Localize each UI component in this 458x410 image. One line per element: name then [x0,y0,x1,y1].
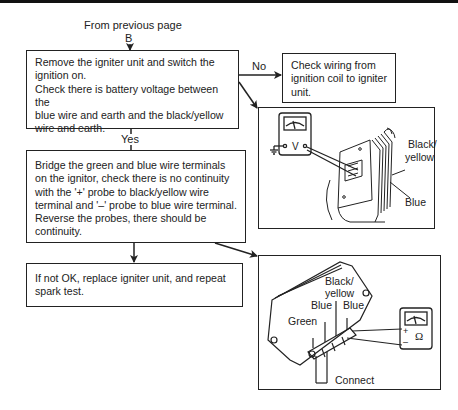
voltmeter-symbol: V [292,141,299,152]
ohmmeter-plus: + [403,326,408,336]
label-green: Green [288,315,317,327]
label-black-yellow: Black/ [408,138,437,150]
label-blue-left: Blue [311,299,332,311]
label-connect: Connect [335,374,374,386]
label-blue: Blue [405,196,426,208]
label-blue-right: Blue [343,299,364,311]
diagram-lines: V Black/ yellow Blue [0,0,458,410]
igniter-connector-drawing [326,128,410,222]
label-black-yellow: yellow [325,287,355,299]
ohmmeter-symbol: Ω [415,330,423,342]
label-black-yellow: Black/ [325,275,354,287]
label-black-yellow: yellow [405,151,435,163]
ohmmeter-minus: – [403,337,408,347]
